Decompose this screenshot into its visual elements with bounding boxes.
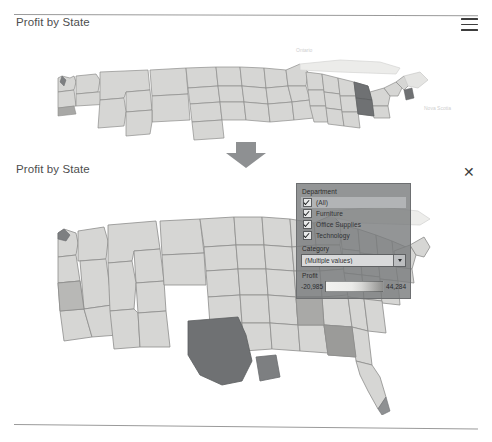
profit-legend-max: 44,284 bbox=[386, 283, 406, 290]
dashboard-view-unfiltered: Profit by State bbox=[0, 16, 492, 146]
hamburger-bar bbox=[461, 24, 478, 26]
profit-legend-min: -20,985 bbox=[301, 283, 323, 290]
dashboard-view-filtered: Profit by State ✕ bbox=[0, 163, 492, 418]
department-filter-item-office-supplies[interactable]: Office Supplies bbox=[301, 219, 406, 230]
category-filter-value: (Multiple values) bbox=[302, 257, 393, 264]
checkbox-checked-icon[interactable] bbox=[303, 220, 312, 229]
department-filter-item-label: Furniture bbox=[316, 210, 343, 217]
profit-legend-label: Profit bbox=[302, 272, 406, 279]
choropleth-map-unfiltered[interactable]: Ontario Nova Scotia bbox=[0, 34, 492, 146]
department-filter-item-label: Office Supplies bbox=[316, 221, 361, 228]
bottom-divider bbox=[14, 424, 478, 429]
close-icon[interactable]: ✕ bbox=[462, 165, 476, 179]
checkbox-checked-icon[interactable] bbox=[303, 231, 312, 240]
department-filter-item-label: (All) bbox=[316, 199, 328, 206]
department-filter-list[interactable]: (All) Furniture Office Supplies Technolo… bbox=[301, 197, 406, 241]
category-filter-label: Category bbox=[302, 245, 406, 252]
profit-legend-gradient bbox=[325, 281, 384, 292]
page-title-top: Profit by State bbox=[16, 16, 90, 28]
category-filter-dropdown[interactable]: (Multiple values) bbox=[301, 254, 406, 267]
choropleth-map-filtered[interactable] bbox=[0, 185, 492, 415]
profit-color-legend: -20,985 44,284 bbox=[301, 281, 406, 292]
hamburger-bar bbox=[461, 18, 478, 20]
hamburger-bar bbox=[461, 29, 478, 31]
department-filter-item-furniture[interactable]: Furniture bbox=[301, 208, 406, 219]
department-filter-item-technology[interactable]: Technology bbox=[301, 230, 406, 241]
filter-panel[interactable]: Department (All) Furniture Office Suppli… bbox=[296, 183, 411, 299]
document-page: Profit by State bbox=[0, 0, 492, 442]
hamburger-menu-icon[interactable] bbox=[461, 18, 478, 31]
map-label-ontario: Ontario bbox=[296, 47, 313, 53]
checkbox-checked-icon[interactable] bbox=[303, 209, 312, 218]
highlighted-state-texas bbox=[188, 317, 252, 385]
department-filter-label: Department bbox=[302, 188, 406, 195]
department-filter-item-label: Technology bbox=[316, 232, 350, 239]
checkbox-checked-icon[interactable] bbox=[303, 198, 312, 207]
map-label-nova-scotia: Nova Scotia bbox=[424, 105, 451, 111]
chevron-down-icon[interactable] bbox=[393, 255, 405, 266]
department-filter-item-all[interactable]: (All) bbox=[301, 197, 406, 208]
page-title-bottom: Profit by State bbox=[16, 163, 90, 175]
